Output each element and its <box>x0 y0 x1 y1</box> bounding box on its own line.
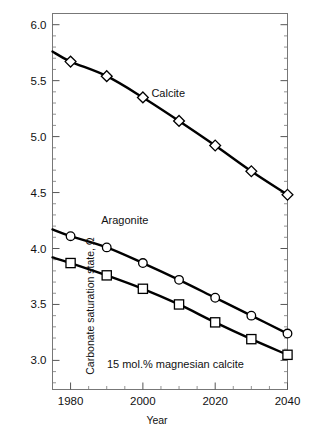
y-tick-label: 6.0 <box>31 19 47 31</box>
data-point-circle <box>175 276 184 285</box>
x-tick-label: 2020 <box>202 395 228 407</box>
data-point-diamond <box>65 56 76 67</box>
series-annotation-aragonite: Aragonite <box>0 214 282 226</box>
x-tick-label: 2040 <box>275 395 301 407</box>
data-point-square <box>102 271 111 280</box>
data-point-circle <box>283 329 292 338</box>
y-tick-label: 4.0 <box>31 243 47 255</box>
y-axis-label-wrap: Carbonate saturation state, Ω <box>68 100 69 101</box>
data-point-square <box>138 284 147 293</box>
data-point-diamond <box>101 71 112 82</box>
data-point-circle <box>66 232 75 241</box>
data-point-circle <box>102 243 111 252</box>
chart-figure: 3.03.54.04.55.05.56.01980200020202040 Ca… <box>0 0 314 438</box>
data-point-circle <box>211 293 220 302</box>
data-point-square <box>211 318 220 327</box>
y-tick-label: 3.5 <box>31 298 47 310</box>
series-annotation-calcite: Calcite <box>11 87 314 99</box>
x-tick-label: 2000 <box>130 395 156 407</box>
x-tick-label: 1980 <box>58 395 84 407</box>
y-tick-label: 5.5 <box>31 75 47 87</box>
x-axis-label: Year <box>0 414 314 426</box>
series-annotation-magnesian-calcite: 15 mol.% magnesian calcite <box>18 358 314 370</box>
data-point-square <box>174 300 183 309</box>
data-point-circle <box>139 259 148 268</box>
data-point-circle <box>247 311 256 320</box>
y-tick-label: 5.0 <box>31 131 47 143</box>
data-point-square <box>66 258 75 267</box>
y-tick-label: 4.5 <box>31 187 47 199</box>
data-point-square <box>247 335 256 344</box>
